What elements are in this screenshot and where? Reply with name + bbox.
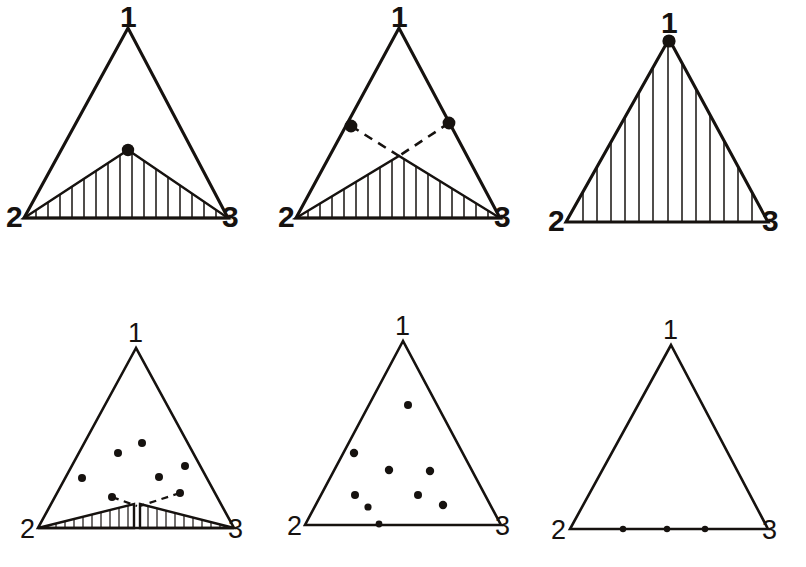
- vertex-label-1-panel-bottom-left: 1: [128, 320, 143, 347]
- vertex-label-3-panel-bottom-right: 3: [762, 517, 777, 544]
- vertex-label-3-panel-bottom-left: 3: [228, 516, 243, 543]
- vertex-label-3-panel-bottom-middle: 3: [495, 513, 510, 540]
- vertex-label-1-panel-bottom-middle: 1: [395, 313, 410, 340]
- vertex-label-1-panel-top-middle: 1: [391, 2, 408, 32]
- vertex-label-2-panel-top-middle: 2: [278, 202, 295, 232]
- vertex-label-2-panel-bottom-right: 2: [551, 517, 566, 544]
- vertex-label-2-panel-bottom-middle: 2: [287, 513, 302, 540]
- vertex-label-2-panel-top-left: 2: [6, 202, 23, 232]
- vertex-label-3-panel-top-left: 3: [222, 202, 239, 232]
- vertex-label-3-panel-top-middle: 3: [494, 202, 511, 232]
- vertex-label-3-panel-top-right: 3: [762, 206, 779, 236]
- vertex-label-2-panel-bottom-left: 2: [20, 516, 35, 543]
- vertex-label-2-panel-top-right: 2: [548, 206, 565, 236]
- vertex-label-1-panel-bottom-right: 1: [663, 317, 678, 344]
- vertex-label-1-panel-top-right: 1: [661, 8, 678, 38]
- vertex-label-1-panel-top-left: 1: [120, 2, 137, 32]
- figure-root: 1 2 3 1 2 3 1 2 3 1 2 3 1 2 3 1 2 3: [0, 0, 806, 567]
- vertex-label-layer: 1 2 3 1 2 3 1 2 3 1 2 3 1 2 3 1 2 3: [0, 0, 806, 567]
